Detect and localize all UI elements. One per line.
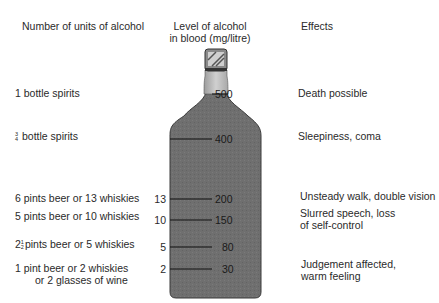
effect-row-6-line2: warm feeling (301, 270, 361, 282)
units-2: 2 (146, 263, 166, 275)
effect-row-2: Sleepiness, coma (298, 130, 381, 142)
units-13: 13 (146, 193, 166, 205)
cap-label (208, 52, 224, 66)
drinks-row-1: 1 bottle spirits (15, 87, 80, 99)
level-label-200: 200 (215, 193, 233, 205)
units-5: 5 (146, 241, 166, 253)
level-label-500: 500 (215, 88, 233, 100)
drinks-row-2: 34 bottle spirits (15, 130, 78, 142)
level-label-80: 80 (222, 241, 234, 253)
drinks-row-6-line2: or 2 glasses of wine (35, 274, 128, 286)
effect-row-4-line1: Slurred speech, loss (300, 207, 395, 219)
drinks-row-3: 6 pints beer or 13 whiskies (15, 192, 139, 204)
level-label-30: 30 (222, 263, 234, 275)
drinks-row-6-line1: 1 pint beer or 2 whiskies (15, 262, 128, 274)
level-label-150: 150 (215, 214, 233, 226)
effect-row-4-line2: of self-control (300, 219, 363, 231)
fraction: 12 (21, 240, 24, 250)
effect-row-6-line1: Judgement affected, (301, 258, 396, 270)
drinks-row-5: 212pints beer or 5 whiskies (15, 238, 135, 250)
level-label-400: 400 (215, 133, 233, 145)
effect-row-1: Death possible (298, 87, 367, 99)
units-10: 10 (146, 214, 166, 226)
drinks-row-4: 5 pints beer or 10 whiskies (15, 210, 139, 222)
fraction: 34 (15, 132, 18, 142)
effect-row-3: Unsteady walk, double vision (300, 190, 435, 202)
